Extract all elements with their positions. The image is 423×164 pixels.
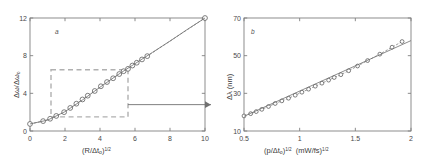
panel-a-yaxis-label: Δω/Δωo [12, 71, 21, 98]
x-tick-label: 6 [133, 135, 137, 142]
x-tick-label: 1.5 [350, 135, 360, 142]
panel-a-xaxis-label-main: (R/Δt [82, 146, 99, 155]
figure-container: 024681004812 a (R/Δto)1/2 Δω/Δωo 0.511.5… [0, 0, 423, 164]
panel-b: 0.511.5210305070 b (p/Δto)1/2 (mW/fs)1/2… [211, 0, 423, 164]
panel-b-letter: b [251, 28, 255, 35]
panel-a-yaxis-label-sub: o [15, 71, 21, 74]
x-tick-label: 2 [409, 135, 413, 142]
x-tick-label: 4 [98, 135, 102, 142]
panel-b-xaxis-label: (p/Δto)1/2 (mW/fs)1/2 [264, 146, 329, 155]
panel-a-xaxis-label-exp: 1/2 [104, 147, 110, 152]
panel-a-plot: 024681004812 [0, 0, 211, 164]
x-tick-label: 0 [28, 135, 32, 142]
y-tick-label: 30 [233, 90, 241, 97]
panel-b-xaxis-units-exp: 1/2 [322, 147, 328, 152]
x-tick-label: 2 [63, 135, 67, 142]
data-point-marker [400, 40, 404, 44]
y-tick-label: 50 [233, 52, 241, 59]
y-tick-label: 70 [233, 15, 241, 22]
panel-b-xaxis-units: (mW/fs) [296, 146, 322, 155]
y-tick-label: 0 [23, 128, 27, 135]
y-tick-label: 8 [23, 52, 27, 59]
y-tick-label: 12 [19, 15, 27, 22]
panel-a-yaxis-label-main: Δω/Δω [12, 74, 21, 98]
x-tick-label: 0.5 [239, 135, 249, 142]
x-tick-label: 1 [298, 135, 302, 142]
panel-b-xaxis-label-main: (p/Δt [264, 146, 280, 155]
panel-a-letter: a [55, 28, 59, 35]
x-tick-label: 8 [168, 135, 172, 142]
panel-a: 024681004812 a (R/Δto)1/2 Δω/Δωo [0, 0, 211, 164]
y-tick-label: 10 [233, 128, 241, 135]
y-tick-label: 4 [23, 90, 27, 97]
x-tick-label: 10 [201, 135, 209, 142]
panel-b-yaxis-label: Δλ (nm) [225, 74, 234, 100]
panel-a-xaxis-label: (R/Δto)1/2 [82, 146, 111, 155]
panel-b-plot: 0.511.5210305070 [211, 0, 423, 164]
